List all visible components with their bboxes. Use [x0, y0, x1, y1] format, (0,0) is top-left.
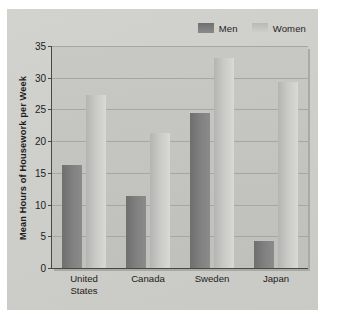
bar-men-japan	[254, 241, 274, 268]
bar-women-canada	[150, 133, 170, 268]
y-tick-label: 30	[35, 72, 46, 83]
x-axis-label-united-states: UnitedStates	[70, 273, 98, 296]
y-tick-mark	[48, 109, 52, 110]
y-tick-mark	[48, 268, 52, 269]
y-tick-mark	[48, 173, 52, 174]
chart-legend: Men Women	[198, 21, 306, 35]
gridline	[52, 78, 308, 79]
bar-women-japan	[278, 82, 298, 268]
bar-men-sweden	[190, 113, 210, 268]
x-axis-label-sweden: Sweden	[195, 273, 230, 285]
y-tick-label: 25	[35, 104, 46, 115]
x-axis-label-canada: Canada	[131, 273, 165, 285]
legend-entry-men[interactable]: Men	[198, 23, 238, 34]
y-tick-mark	[48, 78, 52, 79]
chart-card: Men Women Mean Hours of Housework per We…	[7, 9, 318, 310]
x-axis-label-japan: Japan	[263, 273, 289, 285]
bar-women-united-states	[86, 95, 106, 268]
y-tick-label: 0	[40, 263, 46, 274]
bar-men-canada	[126, 196, 146, 268]
y-tick-label: 35	[35, 41, 46, 52]
y-tick-label: 5	[40, 231, 46, 242]
y-tick-mark	[48, 46, 52, 47]
women-swatch-icon	[252, 23, 268, 33]
bar-men-united-states	[62, 165, 82, 268]
legend-label-women: Women	[273, 23, 306, 34]
y-tick-label: 10	[35, 199, 46, 210]
plot-area: 05101520253035 UnitedStatesCanadaSwedenJ…	[51, 46, 308, 269]
y-tick-mark	[48, 236, 52, 237]
gridline	[52, 46, 308, 47]
y-tick-label: 20	[35, 136, 46, 147]
y-axis-title: Mean Hours of Housework per Week	[18, 45, 32, 271]
y-tick-mark	[48, 141, 52, 142]
legend-entry-women[interactable]: Women	[252, 23, 306, 34]
men-swatch-icon	[198, 23, 214, 33]
y-tick-mark	[48, 205, 52, 206]
legend-label-men: Men	[219, 23, 238, 34]
bar-women-sweden	[214, 58, 234, 268]
y-tick-label: 15	[35, 167, 46, 178]
